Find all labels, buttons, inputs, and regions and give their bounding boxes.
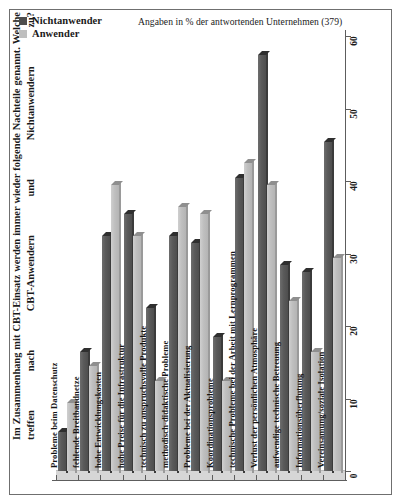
bar-top — [213, 333, 225, 337]
category-label: hohe Entwicklungskosten — [93, 372, 103, 468]
bar-top — [124, 210, 136, 214]
category-label: methodisch-didaktische Probleme — [160, 341, 170, 468]
bar-top — [200, 210, 212, 214]
plot-inner: Probleme beim Datenschutzfehlende Breitb… — [56, 30, 345, 480]
category-label: Koordinationsprobleme — [205, 378, 215, 468]
category-tick — [123, 475, 124, 481]
category-label: aufwendige technische Betreuung — [271, 342, 281, 468]
bar-top — [244, 159, 256, 163]
category-tick — [212, 475, 213, 481]
category-label: Vereinsamung/soziale Isolation — [316, 352, 326, 468]
bar-dark — [102, 232, 110, 471]
category-tick — [167, 475, 168, 481]
category-tick — [301, 475, 302, 481]
value-axis-tick — [345, 471, 351, 472]
legend-item-nichtanwender: Nichtanwender — [19, 15, 102, 27]
value-axis-label: 60 — [349, 36, 359, 45]
bar-group — [323, 30, 345, 471]
category-tick — [323, 475, 324, 481]
bar-side — [341, 256, 343, 474]
bar-top — [280, 261, 292, 265]
legend-label-nichtanwender: Nichtanwender — [32, 16, 102, 26]
bar-top — [333, 254, 345, 258]
category-tick — [256, 475, 257, 481]
plot-area: Probleme beim Datenschutzfehlende Breitb… — [56, 30, 345, 480]
category-tick — [234, 475, 235, 481]
value-axis-label: 30 — [349, 254, 359, 263]
figure-page: Nichtanwender Anwender Angaben in % der … — [0, 0, 402, 504]
value-axis-line — [345, 30, 346, 480]
legend-swatch-nichtanwender — [19, 17, 27, 25]
bar-top — [289, 297, 301, 301]
value-axis-label: 20 — [349, 326, 359, 335]
bar-top — [267, 181, 279, 185]
category-tick — [56, 475, 57, 481]
legend-item-anwender: Anwender — [19, 28, 102, 40]
bar-top — [80, 348, 92, 352]
bar-top — [111, 181, 123, 185]
category-tick — [100, 475, 101, 481]
chart-subtitle: Angaben in % der antwortenden Unternehme… — [138, 16, 342, 27]
category-tick — [78, 475, 79, 481]
category-label: hohe Preise für die Infrastruktur — [116, 344, 126, 468]
bar-light — [333, 254, 341, 472]
category-tick — [189, 475, 190, 481]
chart-title: Im Zusammenhang mit CBT-Einsatz werden i… — [10, 10, 50, 442]
legend-label-anwender: Anwender — [32, 29, 79, 39]
chart-title-text: Im Zusammenhang mit CBT-Einsatz werden i… — [10, 12, 37, 440]
category-tick — [145, 475, 146, 481]
bar-top — [302, 268, 314, 272]
chart-legend: Nichtanwender Anwender — [19, 15, 102, 41]
bar-top — [133, 232, 145, 236]
chart-title-container: Im Zusammenhang mit CBT-Einsatz werden i… — [10, 10, 52, 494]
category-label: technisch zu anspruchsvolle Produkte — [138, 326, 148, 468]
category-label: Verlust der persönlichen Atmosphäre — [249, 328, 259, 468]
legend-swatch-anwender — [19, 30, 27, 38]
chart-frame: Nichtanwender Anwender Angaben in % der … — [9, 9, 392, 495]
bar-face — [191, 243, 199, 471]
bar-face — [333, 258, 341, 472]
category-label: technische Probleme bei der Arbeit mit L… — [227, 251, 237, 468]
bar-top — [146, 304, 158, 308]
value-axis-label: 40 — [349, 181, 359, 190]
bar-top — [178, 203, 190, 207]
category-axis — [52, 480, 347, 481]
category-tick — [278, 475, 279, 481]
bar-dark — [191, 239, 199, 471]
value-axis-label: 0 — [349, 474, 359, 479]
bar-top — [89, 362, 101, 366]
bar-top — [324, 138, 336, 142]
value-axis-label: 10 — [349, 399, 359, 408]
bar-top — [258, 51, 270, 55]
bar-face — [102, 236, 110, 471]
category-label: fehlende Breitbandnetze — [71, 376, 81, 468]
value-axis-label: 50 — [349, 109, 359, 118]
category-label: Informationsüberflutung — [294, 374, 304, 468]
category-label: Probleme bei der Aktualisierung — [182, 346, 192, 468]
value-axis: 0102030405060 — [345, 30, 371, 480]
